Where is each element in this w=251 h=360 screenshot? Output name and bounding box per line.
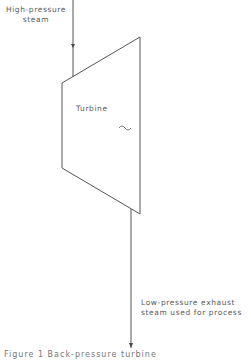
inlet-label-line2: steam [3, 15, 69, 25]
figure-caption: Figure 1 Back-pressure turbine [4, 350, 157, 360]
generator-tilde-icon [119, 126, 131, 130]
outlet-arrow-icon [129, 343, 133, 348]
outlet-label-line1: Low-pressure exhaust [141, 298, 242, 308]
outlet-label-line2: steam used for process [141, 308, 242, 318]
turbine-label: Turbine [76, 104, 108, 114]
inlet-label: High-pressure steam [3, 5, 69, 25]
inlet-label-line1: High-pressure [3, 5, 69, 15]
turbine-shape [62, 37, 140, 214]
inlet-arrow-icon [71, 44, 75, 48]
outlet-label: Low-pressure exhaust steam used for proc… [141, 298, 242, 318]
